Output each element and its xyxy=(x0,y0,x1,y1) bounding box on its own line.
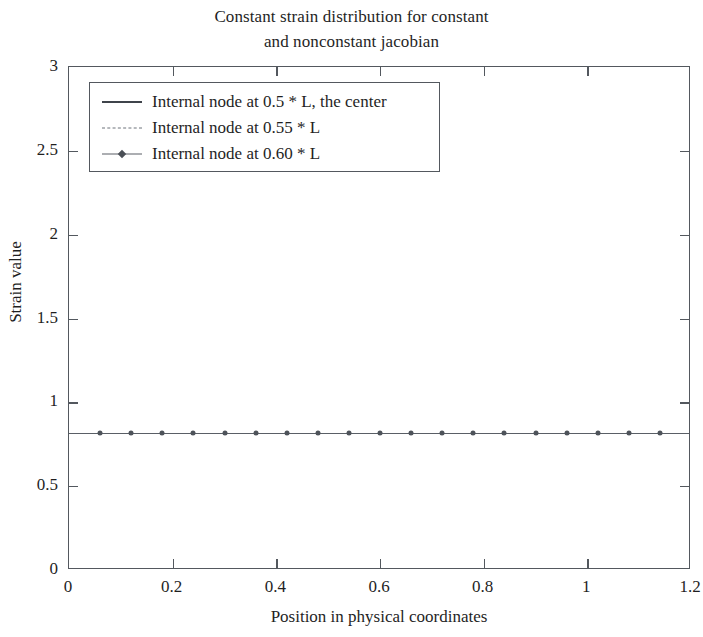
y-tick-right xyxy=(680,486,689,487)
x-axis-title: Position in physical coordinates xyxy=(68,607,690,627)
data-marker xyxy=(471,430,476,435)
x-tick-label: 0.6 xyxy=(368,577,389,597)
y-tick xyxy=(69,151,78,152)
x-tick-label: 0.4 xyxy=(265,577,286,597)
legend-item-1: Internal node at 0.55 * L xyxy=(90,115,439,141)
data-marker xyxy=(595,430,600,435)
y-tick-right xyxy=(680,319,689,320)
x-tick-top xyxy=(380,67,381,76)
data-marker xyxy=(502,430,507,435)
data-marker xyxy=(626,430,631,435)
x-tick xyxy=(380,559,381,568)
data-marker xyxy=(191,430,196,435)
y-tick-right xyxy=(680,151,689,152)
y-tick-label: 2.5 xyxy=(2,140,58,160)
chart-title-line-1: Constant strain distribution for constan… xyxy=(0,4,703,29)
data-marker xyxy=(378,430,383,435)
chart-title: Constant strain distribution for constan… xyxy=(0,4,703,54)
data-marker xyxy=(284,430,289,435)
x-tick xyxy=(276,559,277,568)
x-tick xyxy=(587,559,588,568)
x-tick-label: 0.2 xyxy=(161,577,182,597)
x-tick xyxy=(484,559,485,568)
data-marker xyxy=(222,430,227,435)
y-tick-label: 1 xyxy=(2,391,58,411)
chart-title-line-2: and nonconstant jacobian xyxy=(0,29,703,54)
legend-marker-icon xyxy=(118,150,126,158)
data-marker xyxy=(533,430,538,435)
data-marker xyxy=(98,430,103,435)
data-marker xyxy=(129,430,134,435)
legend-label-1: Internal node at 0.55 * L xyxy=(152,118,320,138)
legend: Internal node at 0.5 * L, the center Int… xyxy=(89,82,440,172)
y-tick-label: 0 xyxy=(2,559,58,579)
x-tick xyxy=(173,559,174,568)
data-marker xyxy=(409,430,414,435)
data-marker xyxy=(160,430,165,435)
x-tick-top xyxy=(276,67,277,76)
y-tick xyxy=(69,402,78,403)
x-tick-label: 0.8 xyxy=(472,577,493,597)
data-marker xyxy=(315,430,320,435)
y-tick xyxy=(69,486,78,487)
data-marker xyxy=(564,430,569,435)
legend-line-sample-solid xyxy=(102,95,142,109)
data-marker xyxy=(346,430,351,435)
x-tick-top xyxy=(173,67,174,76)
y-tick-label: 0.5 xyxy=(2,475,58,495)
legend-label-0: Internal node at 0.5 * L, the center xyxy=(152,92,387,112)
data-marker xyxy=(253,430,258,435)
y-tick-right xyxy=(680,235,689,236)
x-tick-top xyxy=(587,67,588,76)
data-marker xyxy=(440,430,445,435)
x-tick-top xyxy=(484,67,485,76)
legend-label-2: Internal node at 0.60 * L xyxy=(152,144,320,164)
y-tick xyxy=(69,319,78,320)
x-tick-label: 0 xyxy=(64,577,73,597)
y-tick-right xyxy=(680,402,689,403)
data-marker xyxy=(657,430,662,435)
y-tick-data-level xyxy=(69,433,75,434)
y-tick xyxy=(69,235,78,236)
legend-line-sample-dashed xyxy=(102,121,142,135)
legend-item-0: Internal node at 0.5 * L, the center xyxy=(90,89,439,115)
legend-line-sample-dashdot-marker xyxy=(102,147,142,161)
y-tick-label: 3 xyxy=(2,56,58,76)
legend-item-2: Internal node at 0.60 * L xyxy=(90,141,439,167)
x-tick-label: 1 xyxy=(582,577,591,597)
x-tick-label: 1.2 xyxy=(679,577,700,597)
y-axis-title: Strain value xyxy=(6,222,26,342)
